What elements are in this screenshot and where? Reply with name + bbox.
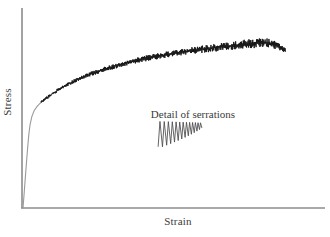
x-axis-label: Strain — [140, 215, 216, 227]
stress-strain-figure: Stress Strain Detail of serrations — [0, 0, 330, 237]
serrated-plastic-curve — [41, 38, 286, 102]
inset-detail-group — [158, 121, 202, 146]
elastic-region-curve — [23, 98, 47, 208]
y-axis-label: Stress — [1, 82, 13, 122]
serration-detail-caption: Detail of serrations — [113, 108, 273, 120]
serration-detail-sawtooth — [158, 121, 202, 146]
curve-group — [23, 38, 286, 208]
